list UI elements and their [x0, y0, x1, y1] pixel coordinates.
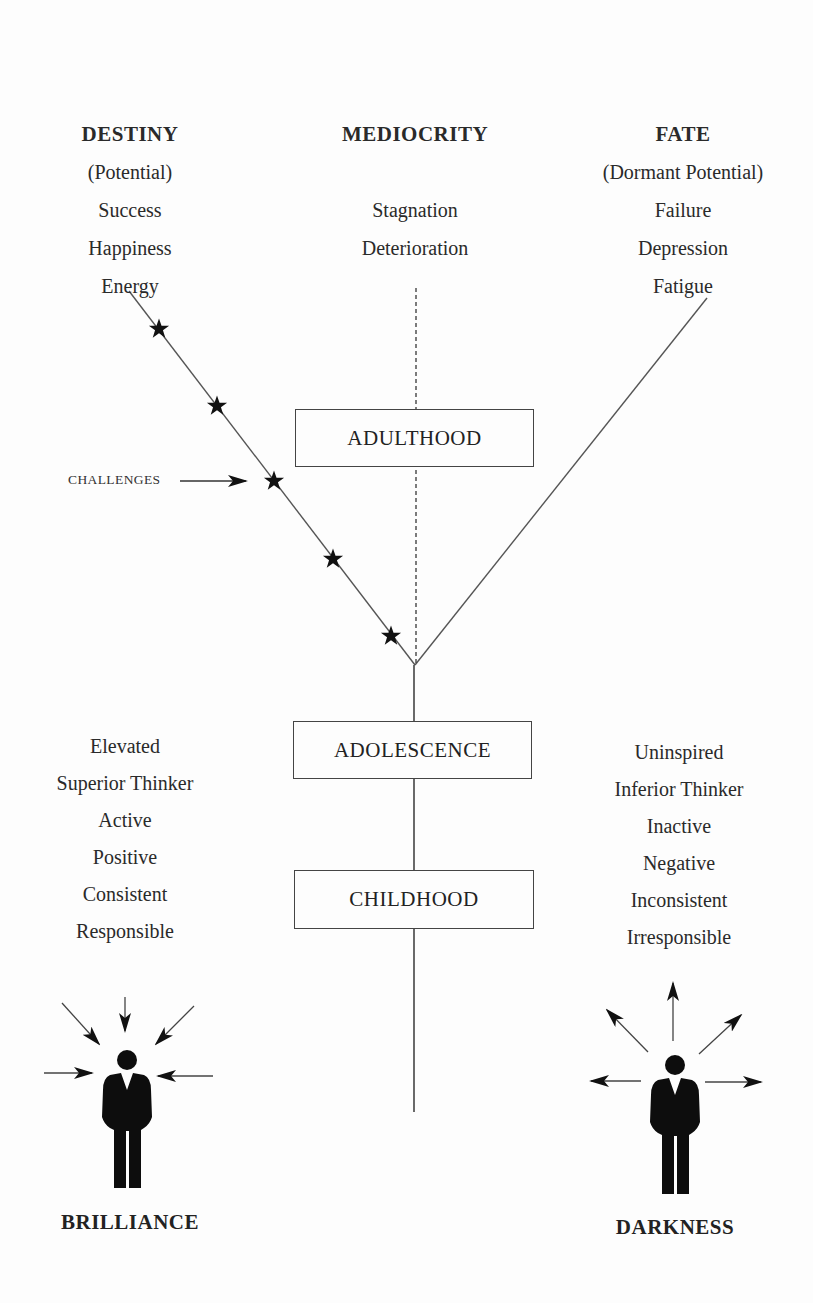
mediocrity-item: Stagnation [300, 191, 530, 229]
trait-item: Responsible [20, 913, 230, 950]
stage-adulthood: ADULTHOOD [295, 409, 534, 467]
trait-item: Inconsistent [574, 882, 784, 919]
destiny-item: Success [20, 191, 240, 229]
mediocrity-item: Deterioration [300, 229, 530, 267]
fate-item: Failure [573, 191, 793, 229]
star-icon [264, 471, 284, 490]
destiny-item: (Potential) [20, 153, 240, 191]
fate-path-line [415, 298, 707, 665]
brilliance-person-icon [102, 1050, 152, 1188]
trait-item: Positive [20, 839, 230, 876]
trait-item: Inferior Thinker [574, 771, 784, 808]
trait-item: Consistent [20, 876, 230, 913]
mediocrity-column: MEDIOCRITY Stagnation Deterioration [300, 115, 530, 267]
trait-item: Negative [574, 845, 784, 882]
trait-item: Uninspired [574, 734, 784, 771]
trait-item: Superior Thinker [20, 765, 230, 802]
star-icon [207, 396, 227, 415]
destiny-title: DESTINY [20, 115, 240, 153]
destiny-item: Energy [20, 267, 240, 305]
trait-item: Active [20, 802, 230, 839]
negative-traits-list: Uninspired Inferior Thinker Inactive Neg… [574, 734, 784, 956]
darkness-person-icon [650, 1055, 700, 1194]
brilliance-label: BRILLIANCE [25, 1210, 235, 1235]
star-icon [323, 549, 343, 568]
stage-childhood: CHILDHOOD [294, 870, 534, 929]
fate-item: Fatigue [573, 267, 793, 305]
mediocrity-title: MEDIOCRITY [300, 115, 530, 153]
fate-item: (Dormant Potential) [573, 153, 793, 191]
fate-item: Depression [573, 229, 793, 267]
fate-title: FATE [573, 115, 793, 153]
destiny-column: DESTINY (Potential) Success Happiness En… [20, 115, 240, 305]
darkness-label: DARKNESS [570, 1215, 780, 1240]
trait-item: Elevated [20, 728, 230, 765]
fate-column: FATE (Dormant Potential) Failure Depress… [573, 115, 793, 305]
positive-traits-list: Elevated Superior Thinker Active Positiv… [20, 728, 230, 950]
trait-item: Irresponsible [574, 919, 784, 956]
stage-adolescence: ADOLESCENCE [293, 721, 532, 779]
trait-item: Inactive [574, 808, 784, 845]
destiny-item: Happiness [20, 229, 240, 267]
challenges-label: CHALLENGES [68, 472, 161, 488]
